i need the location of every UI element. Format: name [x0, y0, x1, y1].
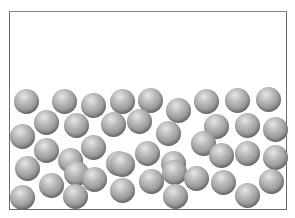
particle-sphere [259, 169, 284, 194]
particle-sphere [34, 138, 59, 163]
particle-sphere [52, 89, 77, 114]
particle-sphere [81, 135, 106, 160]
particle-sphere [162, 160, 187, 185]
particle-sphere [81, 93, 106, 118]
particle-sphere [225, 88, 250, 113]
particle-sphere [34, 110, 59, 135]
particle-sphere [101, 112, 126, 137]
particle-sphere [15, 156, 40, 181]
particle-sphere [235, 113, 260, 138]
particle-sphere [64, 113, 89, 138]
particle-sphere [110, 178, 135, 203]
particle-sphere [10, 185, 35, 210]
particle-sphere [194, 89, 219, 114]
particle-sphere [184, 166, 209, 191]
particle-sphere [127, 109, 152, 134]
particle-sphere [256, 87, 281, 112]
particle-sphere [235, 141, 260, 166]
particle-sphere [211, 170, 236, 195]
particle-sphere [135, 141, 160, 166]
particle-sphere [14, 89, 39, 114]
particle-sphere [235, 183, 260, 208]
particle-sphere [209, 143, 234, 168]
particle-sphere [263, 145, 288, 170]
particle-sphere [63, 184, 88, 209]
particle-sphere [10, 124, 35, 149]
particle-sphere [110, 152, 135, 177]
particle-sphere [156, 121, 181, 146]
particle-sphere [263, 117, 288, 142]
particle-sphere [139, 169, 164, 194]
particle-sphere [39, 173, 64, 198]
particle-sphere [163, 184, 188, 209]
particle-sphere [166, 98, 191, 123]
particle-sphere [110, 89, 135, 114]
